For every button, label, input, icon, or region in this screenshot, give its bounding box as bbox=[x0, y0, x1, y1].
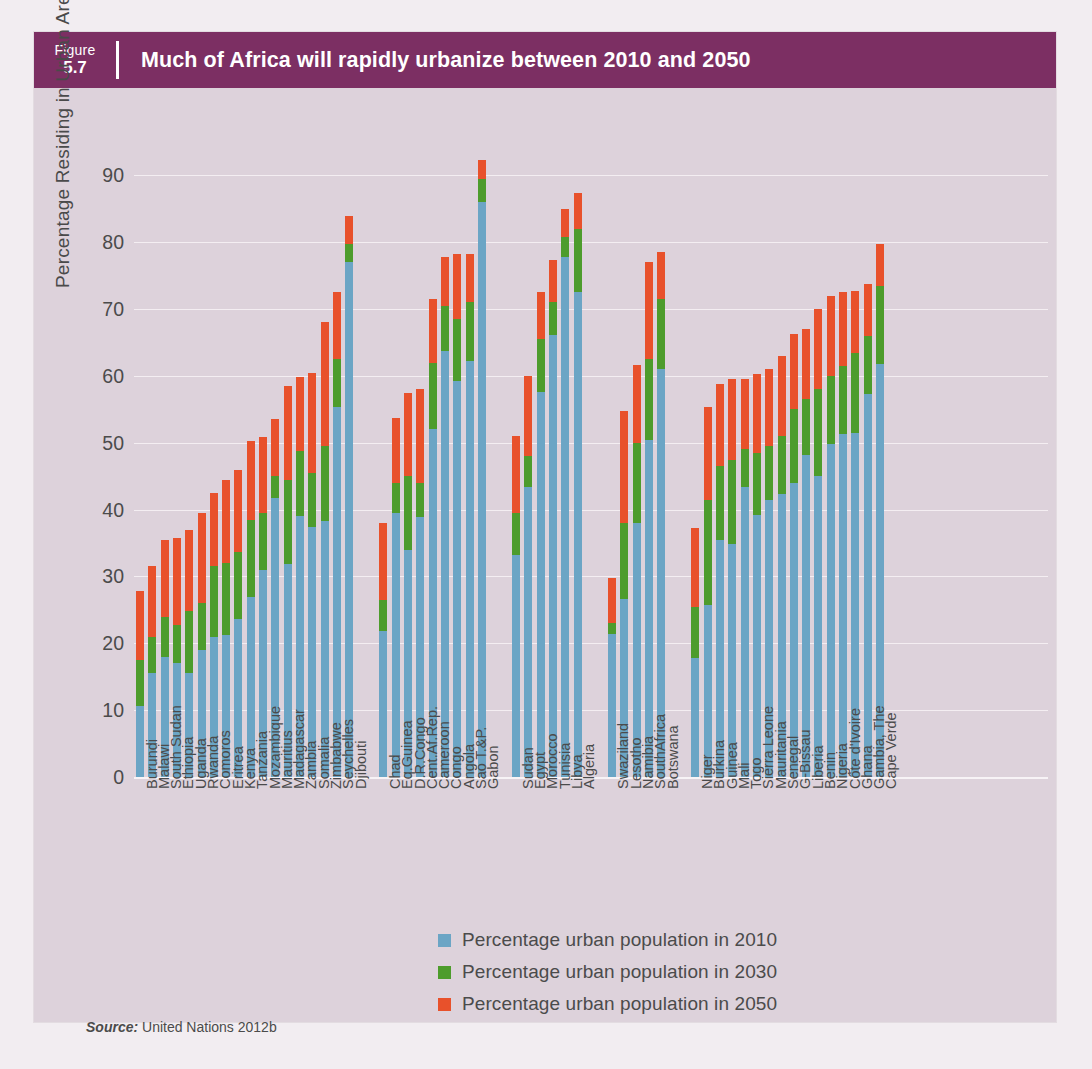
bar-segment-2050 bbox=[753, 374, 761, 453]
bar-togo[interactable] bbox=[741, 379, 749, 777]
bar-segment-2050 bbox=[633, 365, 641, 443]
bar-segment-2050 bbox=[148, 566, 156, 636]
bar-segment-2030 bbox=[608, 623, 616, 634]
bar-morocco[interactable] bbox=[537, 292, 545, 777]
bar-libya[interactable] bbox=[561, 209, 569, 777]
bar-segment-2050 bbox=[608, 578, 616, 623]
y-tick-label: 70 bbox=[78, 298, 124, 321]
bar-g-bissau[interactable] bbox=[790, 334, 798, 777]
bar-segment-2050 bbox=[392, 418, 400, 483]
bar-segment-2050 bbox=[247, 441, 255, 520]
figure-header: Figure 5.7 Much of Africa will rapidly u… bbox=[34, 32, 1056, 88]
bar-tanzania[interactable] bbox=[247, 441, 255, 777]
bar-segment-2030 bbox=[851, 353, 859, 433]
bar-segment-2030 bbox=[876, 286, 884, 364]
bar-somalia[interactable] bbox=[308, 373, 316, 777]
bar-segment-2050 bbox=[524, 376, 532, 456]
bar-sudan[interactable] bbox=[512, 436, 520, 777]
bar-djibouti[interactable] bbox=[345, 216, 353, 777]
bar-c-te-d-ivoire[interactable] bbox=[839, 292, 847, 777]
bar-segment-2050 bbox=[716, 384, 724, 466]
y-tick-label: 50 bbox=[78, 432, 124, 455]
bar-segment-2050 bbox=[814, 309, 822, 389]
bar-sao-t-p[interactable] bbox=[466, 254, 474, 777]
bar-segment-2010 bbox=[814, 476, 822, 777]
bar-segment-2050 bbox=[478, 160, 486, 179]
bar-segment-2030 bbox=[753, 453, 761, 515]
bar-segment-2050 bbox=[802, 329, 810, 399]
bar-chad[interactable] bbox=[379, 523, 387, 777]
bar-mozambique[interactable] bbox=[259, 437, 267, 777]
bar-segment-2050 bbox=[839, 292, 847, 366]
bar-mali[interactable] bbox=[728, 379, 736, 777]
bar-segment-2010 bbox=[839, 434, 847, 777]
legend-swatch-2030 bbox=[438, 966, 451, 979]
bar-segment-2050 bbox=[321, 322, 329, 446]
bar-congo[interactable] bbox=[441, 257, 449, 777]
bar-segment-2030 bbox=[716, 466, 724, 540]
bar-segment-2030 bbox=[404, 476, 412, 550]
legend-swatch-2010 bbox=[438, 934, 451, 947]
bar-segment-2010 bbox=[561, 257, 569, 777]
bar-segment-2030 bbox=[321, 446, 329, 521]
bar-liberia[interactable] bbox=[802, 329, 810, 777]
bar-cape-verde[interactable] bbox=[876, 244, 884, 777]
bar-nigeria[interactable] bbox=[827, 296, 835, 777]
bar-angola[interactable] bbox=[453, 254, 461, 777]
bar-burundi[interactable] bbox=[136, 591, 144, 777]
bar-gambia-the[interactable] bbox=[864, 284, 872, 777]
y-tick-label: 30 bbox=[78, 565, 124, 588]
bar-segment-2050 bbox=[222, 480, 230, 564]
bar-egypt[interactable] bbox=[524, 376, 532, 777]
bar-southafrica[interactable] bbox=[645, 262, 653, 777]
bar-segment-2030 bbox=[296, 451, 304, 517]
y-tick-label: 10 bbox=[78, 699, 124, 722]
bar-niger[interactable] bbox=[691, 528, 699, 777]
bar-seychelles[interactable] bbox=[333, 292, 341, 777]
bar-segment-2030 bbox=[222, 563, 230, 635]
bar-segment-2050 bbox=[234, 470, 242, 553]
bar-tunisia[interactable] bbox=[549, 260, 557, 777]
legend-item: Percentage urban population in 2030 bbox=[438, 956, 777, 988]
bar-segment-2030 bbox=[466, 302, 474, 361]
bar-segment-2030 bbox=[802, 399, 810, 454]
bar-segment-2010 bbox=[478, 202, 486, 777]
bar-segment-2030 bbox=[839, 366, 847, 434]
bar-segment-2030 bbox=[704, 500, 712, 606]
bar-botswana[interactable] bbox=[657, 252, 665, 777]
bar-segment-2010 bbox=[574, 292, 582, 777]
bar-algeria[interactable] bbox=[574, 193, 582, 777]
bar-segment-2050 bbox=[308, 373, 316, 473]
bar-segment-2050 bbox=[512, 436, 520, 513]
bar-segment-2030 bbox=[210, 566, 218, 636]
bar-ghana[interactable] bbox=[851, 291, 859, 777]
bar-segment-2010 bbox=[466, 361, 474, 777]
bar-segment-2050 bbox=[864, 284, 872, 336]
bar-segment-2030 bbox=[441, 306, 449, 351]
legend-item: Percentage urban population in 2050 bbox=[438, 988, 777, 1020]
bar-segment-2030 bbox=[392, 483, 400, 513]
bar-segment-2050 bbox=[827, 296, 835, 376]
bar-segment-2030 bbox=[561, 237, 569, 257]
bar-guinea[interactable] bbox=[716, 384, 724, 777]
bar-segment-2050 bbox=[284, 386, 292, 480]
legend-label-2050: Percentage urban population in 2050 bbox=[462, 993, 777, 1015]
bar-zimbabwe[interactable] bbox=[321, 322, 329, 777]
bar-segment-2050 bbox=[574, 193, 582, 228]
legend-swatch-2050 bbox=[438, 998, 451, 1011]
bar-segment-2050 bbox=[333, 292, 341, 359]
bar-segment-2030 bbox=[345, 244, 353, 262]
bar-gabon[interactable] bbox=[478, 160, 486, 777]
bar-segment-2050 bbox=[345, 216, 353, 244]
y-tick-label: 20 bbox=[78, 632, 124, 655]
bar-burkina[interactable] bbox=[704, 407, 712, 777]
bar-senegal[interactable] bbox=[778, 356, 786, 777]
bar-segment-2050 bbox=[136, 591, 144, 660]
bar-segment-2050 bbox=[379, 523, 387, 600]
bar-namibia[interactable] bbox=[633, 365, 641, 777]
x-category-label: Djibouti bbox=[353, 741, 369, 789]
bar-benin[interactable] bbox=[814, 309, 822, 777]
bar-kenya[interactable] bbox=[234, 470, 242, 777]
bar-segment-2050 bbox=[876, 244, 884, 285]
bar-segment-2030 bbox=[259, 513, 267, 570]
